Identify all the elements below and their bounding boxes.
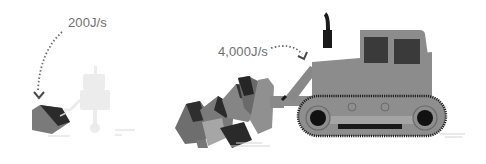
- left-dotted-arrow-icon: [34, 32, 62, 98]
- robot-icon: [64, 66, 110, 133]
- illustration: [0, 0, 486, 164]
- bulldozer-icon: [282, 14, 446, 136]
- right-dotted-arrow-icon: [271, 46, 307, 59]
